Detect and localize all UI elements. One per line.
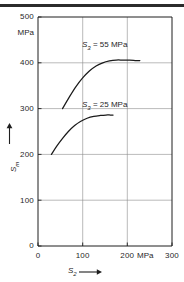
y-tick-label-0: 0 [10,241,34,250]
y-axis-title-symbol: S [9,167,18,172]
y-tick-label-500: 500 [10,12,34,21]
y-tick-label-400: 400 [10,58,34,67]
y-tick-label-300: 300 [10,104,34,113]
annotation-s3-55: S3 = 55 MPa [82,40,127,53]
gridlines-horizontal [38,63,172,200]
x-axis-title-subscript: 2 [73,271,76,277]
annotation-s3-25-value: = 25 MPa [91,100,128,109]
x-axis-arrow-icon [79,268,103,276]
annotation-s3-25: S3 = 25 MPa [82,100,127,113]
x-tick-label-300: 300 [159,251,184,260]
figure-container: 500 400 300 200 100 0 MPa Sm 0 100 200 3… [0,0,184,282]
x-axis-title: S2 [68,266,77,279]
x-axis-unit-label: MPa [137,251,153,260]
x-tick-label-0: 0 [25,251,51,260]
annotation-s3-55-value: = 55 MPa [91,40,128,49]
y-tick-label-100: 100 [10,196,34,205]
x-axis-ticks [38,243,172,247]
y-axis-unit-label: MPa [8,28,34,37]
y-axis-title: Sm [9,162,22,172]
y-axis-ticks [38,17,42,246]
y-tick-label-200: 200 [10,150,34,159]
curve-s3-25 [51,115,113,154]
x-tick-label-100: 100 [70,251,96,260]
y-axis-arrow-icon [5,123,14,145]
y-axis-title-subscript: m [14,162,20,167]
